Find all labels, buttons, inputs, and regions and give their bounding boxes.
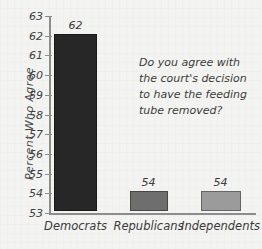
bar [201,191,241,211]
bar-value-label: 62 [69,19,83,32]
bar-chart: Percent Who Agree 5354555657585960616263… [0,0,262,249]
y-tick-label: 56 [29,147,43,160]
bar-value-label: 54 [142,176,156,189]
y-tick-label: 62 [29,29,43,42]
category-label: Republicans [114,219,184,233]
y-tick [45,75,52,76]
y-tick [45,154,52,155]
y-axis-label: Percent Who Agree [23,39,36,209]
y-tick [45,16,52,17]
bar [130,191,168,211]
y-tick [45,213,52,214]
y-tick-label: 55 [29,167,43,180]
y-tick [45,174,52,175]
y-tick [45,115,52,116]
y-tick-label: 61 [29,49,43,62]
x-axis-line [49,213,256,215]
y-tick [45,134,52,135]
y-tick-label: 54 [29,187,43,200]
y-tick-label: 60 [29,69,43,82]
category-label: Democrats [44,219,107,233]
y-tick [45,55,52,56]
bar-value-label: 54 [214,176,228,189]
y-tick-label: 57 [29,128,43,141]
y-tick [45,36,52,37]
question-annotation: Do you agree with the court's decision t… [139,55,257,119]
y-tick-label: 58 [29,108,43,121]
y-tick-label: 63 [29,10,43,23]
category-label: Independents [181,219,260,233]
y-tick-label: 53 [29,207,43,220]
y-tick [45,95,52,96]
y-tick [45,193,52,194]
y-tick-label: 59 [29,88,43,101]
bar [54,34,97,211]
